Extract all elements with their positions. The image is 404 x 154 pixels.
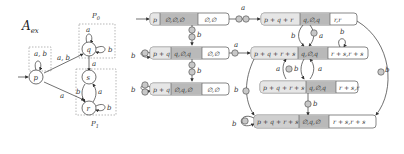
svg-text:p + q + r + s: p + q + r + s (254, 50, 295, 58)
edge-label-n5-n7: b (313, 100, 318, 108)
edge-label-n3-n4: a (234, 41, 238, 49)
graph-node-n5: p + q + r + s q,∅,q r + s,r (260, 81, 360, 93)
svg-text:∅,∅: ∅,∅ (204, 16, 217, 23)
edge-label-p-q: a, b (57, 54, 71, 62)
svg-text:p + q: p + q (153, 50, 170, 58)
svg-text:p: p (34, 74, 39, 82)
diagram-canvas: Aex P0 P1 a, b a, b a a b a b a b p (0, 0, 404, 154)
svg-text:q,∅,q: q,∅,q (309, 84, 326, 92)
svg-text:r + s,r: r + s,r (339, 84, 360, 91)
svg-text:r + s,r + s: r + s,r + s (333, 118, 365, 125)
edge-label-r-s: a (98, 88, 102, 96)
edge-r-s (93, 84, 96, 102)
edge-label-n1-n2: a (241, 4, 245, 12)
edge-n2-n4-b (299, 25, 304, 46)
edge-label-n2-n7: b (385, 66, 390, 74)
graph-node-n1: p ∅,∅,∅ ∅,∅ (150, 13, 229, 25)
partition-label-p0: P0 (91, 12, 101, 21)
graph-node-n4: p + q + r + s q,∅,q r + s,r + s (251, 47, 368, 59)
edge-label-n6-loop: b (131, 86, 136, 94)
state-q: q (82, 42, 96, 56)
svg-text:q,∅,q: q,∅,q (301, 50, 318, 58)
svg-text:q,∅,q: q,∅,q (174, 50, 191, 58)
configuration-graph: a b b a b b b a b a b a b b b b (131, 4, 390, 128)
state-p: p (29, 70, 43, 84)
edge-label-r-loop: b (107, 104, 112, 112)
svg-text:p + q + r + s: p + q + r + s (263, 84, 304, 92)
svg-text:∅,∅,∅: ∅,∅,∅ (165, 16, 185, 23)
svg-text:∅,q,∅: ∅,q,∅ (174, 86, 193, 94)
edge-label-n2-n4-b: b (291, 32, 296, 40)
edge-n4-n7 (247, 59, 255, 115)
counter-markers (142, 16, 384, 124)
edge-label-q-loop: a (86, 26, 90, 34)
edge-label-n2-n4-a: a (319, 32, 323, 40)
edge-r-loop (96, 104, 105, 110)
svg-text:p: p (153, 16, 157, 24)
edge-label-n4-n7: b (234, 86, 239, 94)
edge-label-n7-loop: b (232, 120, 237, 128)
graph-node-n6: p + q ∅,q,∅ ∅,∅ (150, 83, 229, 95)
edge-label-n4-n5-a: a (276, 65, 280, 73)
edge-label-n4-n5-b: b (294, 65, 299, 73)
svg-text:q: q (87, 46, 92, 54)
graph-node-n3: p + q q,∅,q ∅,∅ (150, 47, 229, 59)
edge-label-q-s: a (92, 60, 96, 68)
svg-text:r + s,r + s: r + s,r + s (331, 50, 363, 57)
edge-label-s-r: b (76, 88, 81, 96)
edge-n2-n7 (357, 21, 388, 115)
svg-text:p + q: p + q (153, 86, 170, 94)
edge-label-p-r: a (60, 92, 64, 100)
graph-node-n7: p + q + r + s ∅,q,∅ r + s,r + s (254, 115, 376, 128)
svg-text:p + q + r: p + q + r (264, 16, 294, 24)
svg-text:q,∅,q: q,∅,q (303, 16, 320, 24)
edge-label-n4-loop: b (340, 28, 345, 36)
edge-n4-n5 (301, 59, 304, 79)
edge-n4-loop (339, 39, 346, 47)
svg-text:s: s (87, 74, 91, 82)
svg-text:∅,∅: ∅,∅ (207, 50, 220, 57)
svg-text:r,r: r,r (334, 16, 342, 23)
graph-node-n2: p + q + r q,∅,q r,r (261, 13, 357, 25)
edge-label-n1-n3: b (197, 31, 202, 39)
automaton-title: Aex (21, 19, 39, 35)
edge-label-n3-n6: b (197, 67, 202, 75)
edge-label-q-loop-right: b (108, 46, 113, 54)
edge-p-loop (35, 61, 41, 70)
edge-n5-n4 (310, 59, 314, 79)
edge-label-n5-n4: a (318, 65, 322, 73)
svg-text:p + q + r + s: p + q + r + s (257, 118, 298, 126)
edge-q-loop-right (96, 46, 105, 52)
svg-text:∅,q,∅: ∅,q,∅ (302, 118, 321, 126)
state-s: s (82, 70, 96, 84)
edge-label-n3-loop: b (131, 52, 136, 60)
edge-label-p-loop: a, b (34, 50, 48, 58)
automaton-panel: Aex P0 P1 a, b a, b a a b a b a b p (18, 12, 116, 129)
state-r: r (82, 101, 96, 115)
svg-text:∅,∅: ∅,∅ (207, 86, 220, 93)
partition-label-p1: P1 (90, 120, 99, 129)
